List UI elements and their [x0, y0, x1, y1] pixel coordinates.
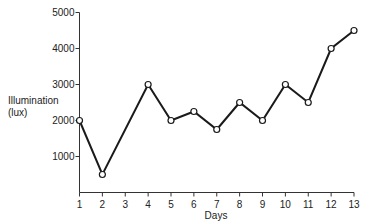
data-point-marker: [168, 118, 174, 124]
x-tick-label: 5: [168, 199, 174, 210]
chart-axes: [80, 13, 355, 193]
data-point-marker: [214, 127, 220, 133]
data-point-marker: [191, 109, 197, 115]
y-axis-label-line1: Illumination: [8, 95, 59, 106]
data-point-marker: [282, 82, 288, 88]
data-point-marker: [351, 28, 357, 34]
x-axis-label: Days: [205, 210, 228, 221]
data-point-marker: [77, 118, 83, 124]
x-tick-label: 1: [77, 199, 83, 210]
data-point-marker: [145, 82, 151, 88]
x-tick-label: 6: [191, 199, 197, 210]
axis-ticks: 1234567891011121310002000300040005000: [52, 7, 360, 210]
data-point-marker: [260, 118, 266, 124]
line-chart: 1234567891011121310002000300040005000 Da…: [0, 0, 365, 224]
data-point-marker: [305, 100, 311, 106]
x-tick-label: 10: [280, 199, 292, 210]
y-tick-label: 2000: [52, 115, 75, 126]
x-tick-label: 4: [145, 199, 151, 210]
y-tick-label: 5000: [52, 7, 75, 18]
data-points: [77, 28, 358, 178]
x-tick-label: 9: [260, 199, 266, 210]
x-tick-label: 11: [303, 199, 314, 210]
x-tick-label: 3: [122, 199, 128, 210]
x-tick-label: 7: [214, 199, 220, 210]
y-tick-label: 1000: [52, 151, 75, 162]
data-point-marker: [328, 46, 334, 52]
x-tick-label: 8: [237, 199, 243, 210]
x-tick-label: 12: [326, 199, 338, 210]
data-series-line: [80, 31, 355, 175]
x-tick-label: 13: [348, 199, 360, 210]
data-point-marker: [237, 100, 243, 106]
y-axis-label-line2: (lux): [8, 107, 27, 118]
data-point-marker: [99, 172, 105, 178]
y-tick-label: 4000: [52, 43, 75, 54]
y-tick-label: 3000: [52, 79, 75, 90]
x-tick-label: 2: [100, 199, 106, 210]
